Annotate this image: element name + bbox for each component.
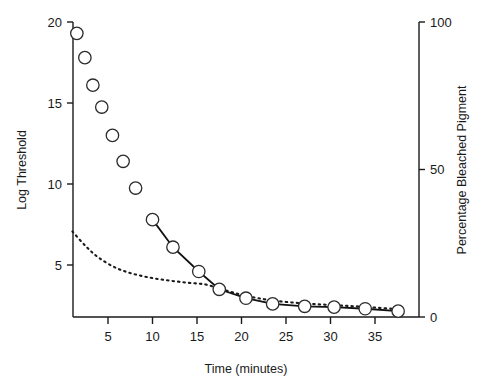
data-point-marker [146,213,158,225]
data-point-marker [240,292,252,304]
bottom-tick-label: 15 [190,329,204,344]
data-point-marker [266,298,278,310]
right-tick-label: 50 [430,162,444,177]
right-axis-title: Percentage Bleached Pigment [455,85,469,254]
data-point-marker [79,51,91,63]
data-point-marker [87,79,99,91]
bottom-tick-label: 10 [145,329,159,344]
chart-figure: 5101520 050100 5101520253035 Log Thresho… [0,0,483,379]
data-point-marker [359,303,371,315]
bottom-tick-label: 5 [104,329,111,344]
bottom-tick-label: 25 [279,329,293,344]
left-tick-label: 15 [48,96,62,111]
data-point-marker [96,101,108,113]
data-point-marker [392,305,404,317]
data-point-marker [117,155,129,167]
data-point-marker [298,300,310,312]
left-tick-label: 20 [48,15,62,30]
recovery-threshold-chart: 5101520 050100 5101520253035 Log Thresho… [0,0,483,379]
data-point-marker [328,301,340,313]
data-point-marker [106,129,118,141]
data-point-marker [213,283,225,295]
bottom-axis-title: Time (minutes) [205,362,288,376]
data-point-marker [167,241,179,253]
left-tick-label: 5 [55,258,62,273]
data-point-marker [193,265,205,277]
data-point-marker [71,27,83,39]
right-tick-label: 100 [430,15,452,30]
bottom-tick-label: 35 [368,329,382,344]
left-tick-label: 10 [48,177,62,192]
right-tick-label: 0 [430,310,437,325]
left-axis-title: Log Threshold [15,130,29,210]
data-point-marker [129,182,141,194]
bottom-tick-label: 30 [323,329,337,344]
bottom-tick-label: 20 [234,329,248,344]
